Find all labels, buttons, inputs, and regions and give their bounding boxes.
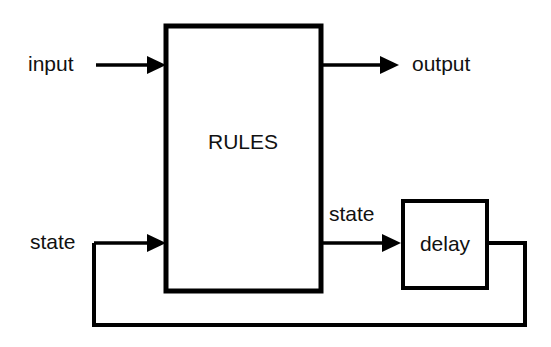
- diagram-canvas: RULES delay input output state state: [0, 0, 551, 347]
- output-label: output: [412, 52, 471, 75]
- arrowhead-icon: [382, 234, 401, 252]
- state-output-label: state: [329, 202, 375, 225]
- output-arrow: [321, 56, 399, 74]
- arrowhead-icon: [380, 56, 399, 74]
- block-diagram: RULES delay input output state state: [0, 0, 551, 347]
- state-input-label: state: [30, 230, 76, 253]
- state-feedback-arrow: [94, 234, 166, 252]
- input-arrow: [96, 56, 166, 74]
- arrowhead-icon: [147, 234, 166, 252]
- rules-block[interactable]: [166, 26, 321, 291]
- input-label: input: [28, 52, 74, 75]
- delay-block-label: delay: [420, 232, 471, 255]
- arrowhead-icon: [147, 56, 166, 74]
- state-to-delay-arrow: [321, 234, 401, 252]
- rules-block-label: RULES: [208, 130, 278, 153]
